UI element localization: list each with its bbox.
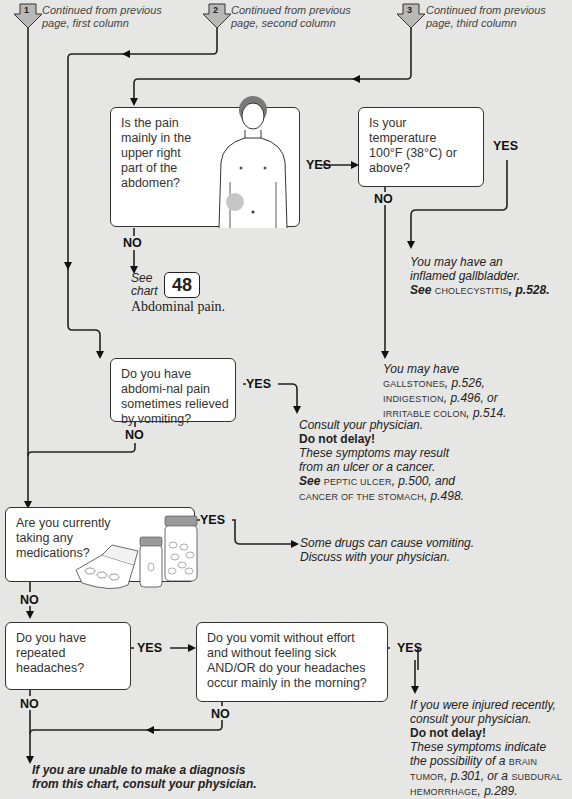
label-yes: YES: [137, 641, 162, 655]
reference-link[interactable]: INDIGESTION: [383, 394, 444, 404]
continuation-text-line: page, third column: [426, 17, 546, 30]
continuation-1-text: Continued from previous page, first colu…: [42, 4, 162, 30]
man-torso-illustration: [205, 92, 300, 228]
result-gallstones: You may have GALLSTONES, p.526, INDIGEST…: [383, 362, 506, 421]
result-reference: INDIGESTION, p.496, or: [383, 391, 506, 406]
reference-link[interactable]: HEMORRHAGE: [410, 787, 478, 797]
page-ref: , p.528.: [509, 283, 550, 297]
reference-link[interactable]: GALLSTONES: [383, 379, 445, 389]
page-ref: , p.514.: [466, 406, 506, 420]
label-no: NO: [374, 192, 393, 206]
result-reference: GALLSTONES, p.526,: [383, 376, 506, 391]
page-ref: , p.526,: [445, 376, 485, 390]
final-advice-line: If you are unable to make a diagnosis: [32, 763, 257, 777]
continuation-number: 3: [407, 5, 412, 15]
page-ref: , p.301, or a: [444, 769, 508, 783]
result-line: the possibility of a BRAIN: [410, 754, 562, 769]
result-reference: See PEPTIC ULCER, p.500, and: [299, 474, 464, 489]
result-line: Some drugs can cause vomiting.: [300, 536, 474, 550]
result-line: You may have an: [410, 255, 550, 269]
result-reference: TUMOR, p.301, or a SUBDURAL: [410, 769, 562, 784]
label-no: NO: [20, 593, 39, 607]
reference-link[interactable]: CHOLECYSTITIS: [435, 286, 509, 296]
question-text: Do you vomit without effort and without …: [207, 631, 377, 691]
label-yes: YES: [306, 158, 331, 172]
result-ulcer: Consult your physician. Do not delay! Th…: [299, 418, 464, 504]
label-no: NO: [123, 236, 142, 250]
result-gallbladder: You may have an inflamed gallbladder. Se…: [410, 255, 550, 298]
question-headaches: Do you have repeated headaches?: [5, 622, 131, 690]
result-line: Discuss with your physician.: [300, 550, 474, 564]
reference-link[interactable]: TUMOR: [410, 772, 444, 782]
result-line: Consult your physician.: [299, 418, 464, 432]
result-reference: CANCER OF THE STOMACH, p.498.: [299, 489, 464, 504]
label-no: NO: [125, 428, 144, 442]
reference-link[interactable]: SUBDURAL: [511, 772, 562, 782]
question-text: Do you have repeated headaches?: [16, 631, 106, 676]
reference-link[interactable]: BRAIN: [509, 757, 538, 767]
continuation-text-line: Continued from previous: [42, 4, 162, 17]
label-yes: YES: [246, 377, 271, 391]
see-text: See: [410, 283, 431, 297]
continuation-1: 1: [14, 3, 44, 33]
reference-link[interactable]: PEPTIC ULCER: [324, 477, 392, 487]
chart-number-badge[interactable]: 48: [164, 272, 200, 298]
page-ref: , p.496, or: [444, 391, 498, 405]
label-no: NO: [211, 707, 230, 721]
question-vomit-without-effort: Do you vomit without effort and without …: [196, 622, 388, 702]
result-reference: See CHOLECYSTITIS, p.528.: [410, 283, 550, 298]
continuation-text-line: Continued from previous: [216, 4, 351, 17]
question-temperature: Is your temperature 100°F (38°C) or abov…: [358, 107, 484, 187]
result-drugs: Some drugs can cause vomiting. Discuss w…: [300, 536, 474, 564]
page-ref: , p.498.: [424, 489, 464, 503]
result-line: inflamed gallbladder.: [410, 269, 550, 283]
continuation-3-text: Continued from previous page, third colu…: [426, 4, 546, 30]
result-brain: If you were injured recently, consult yo…: [410, 698, 562, 799]
result-text: the possibility of a: [410, 754, 505, 768]
continuation-3: 3: [397, 3, 427, 33]
question-text: Do you have abdomi-nal pain sometimes re…: [121, 367, 229, 427]
final-advice: If you are unable to make a diagnosis fr…: [32, 763, 257, 791]
continuation-text-line: page, first column: [42, 17, 162, 30]
continuation-text-line: Continued from previous: [426, 4, 546, 17]
result-line: consult your physician.: [410, 712, 562, 726]
urgent-warning: Do not delay!: [299, 432, 464, 446]
question-abdominal-pain-vomiting: Do you have abdomi-nal pain sometimes re…: [110, 358, 236, 422]
result-line: These symptoms indicate: [410, 740, 562, 754]
label-yes: YES: [493, 139, 518, 153]
question-text: Is your temperature 100°F (38°C) or abov…: [369, 116, 469, 176]
label-yes: YES: [200, 513, 225, 527]
label-yes: YES: [397, 641, 422, 655]
result-line: You may have: [383, 362, 506, 376]
page-ref: , p.500, and: [392, 474, 455, 488]
final-advice-line: from this chart, consult your physician.: [32, 777, 257, 791]
page-ref: , p.289.: [478, 784, 518, 798]
continuation-text-line: page, second column: [216, 17, 351, 30]
chart-text: chart: [131, 285, 158, 298]
reference-link[interactable]: CANCER OF THE STOMACH: [299, 492, 424, 502]
result-line: If you were injured recently,: [410, 698, 562, 712]
result-line: from an ulcer or a cancer.: [299, 460, 464, 474]
result-reference: HEMORRHAGE, p.289.: [410, 784, 562, 799]
continuation-number: 1: [24, 5, 29, 15]
result-line: These symptoms may result: [299, 446, 464, 460]
see-chart-title[interactable]: Abdominal pain.: [131, 299, 225, 315]
see-text: See: [299, 474, 320, 488]
see-chart-text: See chart: [131, 272, 158, 298]
question-text: Is the pain mainly in the upper right pa…: [121, 116, 203, 191]
medication-bottles-illustration: [72, 515, 202, 590]
urgent-warning: Do not delay!: [410, 726, 562, 740]
label-no: NO: [20, 697, 39, 711]
continuation-2-text: Continued from previous page, second col…: [216, 4, 351, 30]
